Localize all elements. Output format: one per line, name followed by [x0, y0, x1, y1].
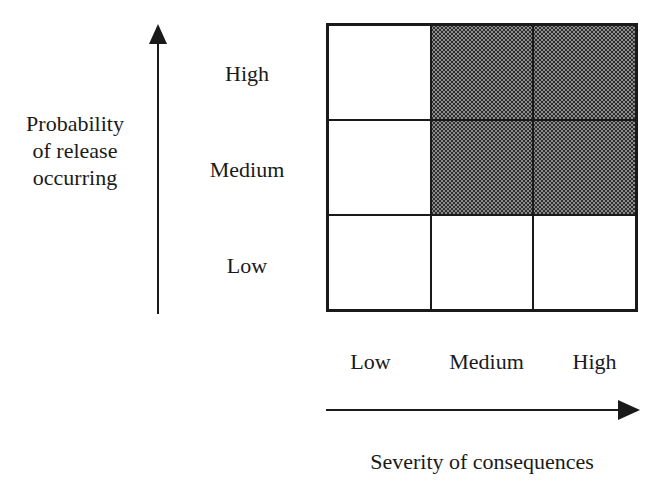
cell-low-medium	[431, 215, 534, 310]
x-axis-title: Severity of consequences	[326, 450, 638, 474]
x-axis-arrow-icon	[324, 398, 644, 422]
y-axis-title-line: of release	[0, 137, 150, 164]
col-label-medium: Medium	[435, 350, 538, 374]
cell-high-high	[533, 25, 636, 120]
col-label-high: High	[543, 350, 646, 374]
y-axis-title: Probability of release occurring	[0, 110, 150, 191]
col-label-low: Low	[319, 350, 422, 374]
cell-medium-high	[533, 120, 636, 215]
cell-high-medium	[431, 25, 534, 120]
cell-medium-medium	[431, 120, 534, 215]
row-label-high: High	[192, 62, 302, 86]
y-axis-title-line: occurring	[0, 164, 150, 191]
row-label-low: Low	[192, 254, 302, 278]
y-axis-title-line: Probability	[0, 110, 150, 137]
row-label-medium: Medium	[192, 158, 302, 182]
cell-high-low	[328, 25, 431, 120]
risk-matrix	[326, 23, 638, 312]
cell-low-low	[328, 215, 431, 310]
cell-medium-low	[328, 120, 431, 215]
cell-low-high	[533, 215, 636, 310]
y-axis-arrow-icon	[148, 22, 170, 317]
